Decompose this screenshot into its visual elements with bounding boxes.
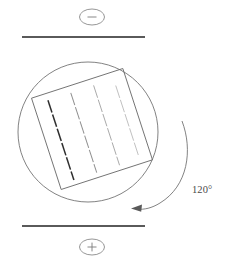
director-column-1 (71, 93, 97, 173)
bottom-electrode-group (22, 226, 145, 255)
diagram-canvas: 120° (0, 0, 229, 266)
director-column-0 (48, 100, 74, 180)
rotation-arrowhead-icon (131, 205, 142, 212)
plus-sign-icon (88, 243, 97, 252)
director-column-2 (94, 85, 120, 165)
rotation-indicator-group (131, 121, 187, 212)
rotation-angle-label: 120° (192, 184, 212, 195)
sample-group (32, 69, 153, 190)
director-column-3 (116, 86, 139, 155)
top-electrode-group (22, 9, 145, 37)
sample-square-outline (32, 69, 153, 190)
electro-optic-cell-diagram: 120° (0, 0, 229, 266)
